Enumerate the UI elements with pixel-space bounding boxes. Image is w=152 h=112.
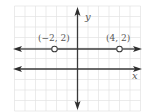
y-axis-label: y bbox=[84, 11, 91, 22]
point-label-4-2: (4, 2) bbox=[106, 33, 130, 43]
coordinate-graph: x y (−2, 2) (4, 2) bbox=[0, 0, 152, 112]
open-point-4-2 bbox=[117, 46, 123, 52]
open-point-neg2-2 bbox=[52, 46, 58, 52]
x-axis-label: x bbox=[132, 70, 138, 81]
point-label-neg2-2: (−2, 2) bbox=[38, 33, 70, 43]
